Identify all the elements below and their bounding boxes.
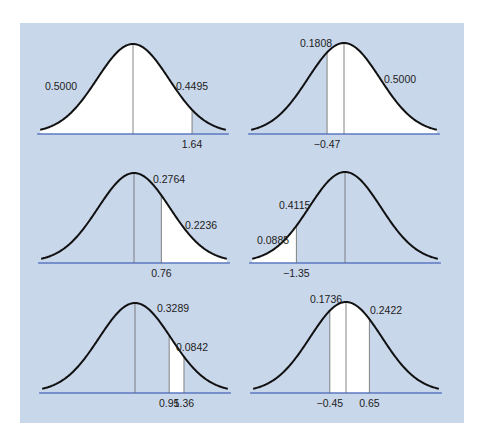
shaded-area — [330, 302, 370, 393]
area-probability-label: 0.0842 — [176, 341, 208, 353]
area-probability-label: 0.2764 — [153, 173, 185, 185]
z-tick-label: 1.36 — [174, 397, 195, 409]
area-probability-label: 0.3289 — [157, 302, 189, 314]
area-probability-label: 0.4115 — [279, 199, 310, 211]
area-probability-label: 0.5000 — [45, 80, 77, 92]
normal-curve-middle-left: 0.760.27640.2236 — [38, 173, 230, 279]
z-tick-label: −0.47 — [314, 138, 341, 150]
z-tick-label: −0.45 — [317, 397, 344, 409]
area-probability-label: 0.5000 — [384, 73, 416, 85]
shaded-area — [327, 43, 437, 134]
z-tick-label: 0.65 — [359, 397, 380, 409]
area-probability-label: 0.1736 — [310, 293, 342, 305]
area-probability-label: 0.1808 — [300, 37, 332, 49]
z-tick-label: −1.35 — [283, 267, 310, 279]
normal-curve-top-right: −0.470.18080.5000 — [248, 37, 440, 150]
normal-curve-middle-right: −1.350.41150.0885 — [249, 172, 441, 279]
normal-curve-bottom-right: −0.450.650.17360.2422 — [250, 293, 442, 409]
z-tick-label: 0.76 — [151, 267, 172, 279]
normal-curve-bottom-left: 0.951.360.32890.0842 — [39, 302, 231, 409]
normal-curve-top-left: 1.640.50000.4495 — [37, 44, 229, 150]
area-probability-label: 0.0885 — [257, 234, 289, 246]
area-probability-label: 0.2422 — [370, 304, 402, 316]
area-probability-label: 0.4495 — [176, 80, 208, 92]
area-probability-label: 0.2236 — [185, 219, 217, 231]
normal-curves-figure: 1.640.50000.4495−0.470.18080.50000.760.2… — [0, 0, 483, 440]
z-tick-label: 1.64 — [182, 138, 203, 150]
